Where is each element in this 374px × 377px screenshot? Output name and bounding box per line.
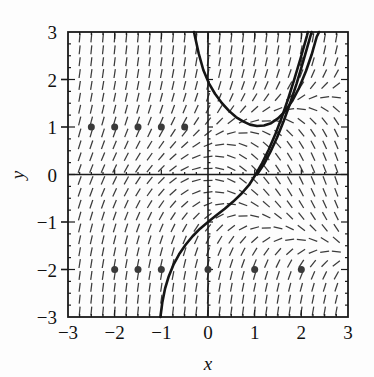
slope-field-dash [310,260,316,267]
slope-field-dash [333,83,340,89]
slope-field-dash [321,107,329,112]
slope-field-dash [91,295,92,304]
slope-field-dash [231,45,232,54]
slope-field-dash [184,57,185,66]
slope-field-dash [137,247,139,256]
slope-field-dash [147,153,152,160]
initial-condition-dot [111,266,118,273]
slope-field-dash [193,130,199,136]
slope-field-dash [102,105,104,114]
slope-field-dash [148,129,152,137]
slope-field-dash [137,283,138,292]
slope-field-dash [335,200,338,208]
slope-field-dash [286,119,294,123]
slope-field-dash [254,283,256,292]
slope-field-dash [172,283,173,292]
slope-field-dash [286,130,292,136]
slope-field-dash [90,235,92,244]
slope-field-dash [160,93,162,102]
slope-field-dash [265,259,269,267]
slope-field-dash [78,141,81,150]
slope-field-dash [79,57,80,66]
slope-field-dash [181,190,189,195]
y-tick-label: 1 [48,117,58,138]
slope-field-dash [90,164,93,172]
slope-field-dash [335,141,338,149]
slope-field-dash [193,213,199,219]
slope-field-dash [274,227,283,229]
slope-field-dash [219,69,221,78]
slope-field-dash [322,118,328,125]
slope-field-dash [101,176,105,184]
slope-field-dash [114,57,115,66]
slope-field-dash [136,165,141,173]
slope-field-dash [136,224,139,232]
slope-field-dash [333,261,340,267]
slope-field-dash [334,212,338,220]
slope-field-dash [126,45,127,54]
slope-field-dash [161,45,162,54]
slope-field-dash [102,81,104,90]
slope-field-dash [240,106,246,113]
slope-field-dash [311,212,316,220]
slope-field-dash [323,57,326,66]
slope-field-dash [172,295,173,304]
slope-field-dash [277,57,279,66]
slope-field-dash [78,164,81,172]
slope-field-dash [299,153,303,161]
slope-field-dash [171,117,175,125]
slope-field-dash [90,212,93,221]
slope-field-dash [101,141,104,149]
slope-field-dash [230,57,232,66]
slope-field-dash [333,237,340,243]
slope-field-dash [136,200,140,208]
slope-field-dash [195,271,197,280]
slope-field-dash [90,224,92,233]
slope-field-dash [265,57,267,66]
y-tick-label: −2 [37,260,57,281]
slope-field-dash [335,57,338,66]
x-tick-label: −2 [105,322,125,343]
slope-field-dash [227,178,235,182]
slope-field-dash [254,45,255,54]
slope-field-dash [287,188,292,196]
slope-field-dash [78,129,80,138]
slope-field-dash [228,225,235,231]
slope-field-dash [218,81,221,90]
slope-field-dash [242,271,244,280]
slope-field-dash [251,106,258,112]
slope-field-dash [103,45,104,54]
slope-field-dash [124,200,128,208]
slope-field-dash [297,109,306,110]
slope-field-dash [148,212,152,220]
slope-field-dash [274,213,281,218]
slope-field-dash [125,235,127,244]
slope-field-dash [137,93,139,102]
slope-field-dash [253,81,256,89]
slope-field-dash [195,69,197,78]
slope-field-dash [215,144,224,145]
slope-field-dash [251,237,258,243]
slope-field-dash [275,201,281,208]
slope-field-dash [183,93,186,102]
slope-field-dash [101,200,104,208]
slope-field-dash [113,176,117,184]
slope-field-dash [287,165,291,173]
slope-field-dash [137,105,140,114]
slope-field-dash [251,142,259,147]
slope-field-dash [170,189,177,195]
slope-field-dash [192,155,200,158]
slope-field-dash [125,129,128,137]
slope-field-dash [126,283,127,292]
slope-field-dash [159,201,164,208]
slope-field-dash [79,247,81,256]
slope-field-dash [335,176,338,184]
slope-field-dash [230,81,233,90]
slope-field-dash [320,97,329,98]
slope-field-dash [289,57,291,66]
slope-field-dash [137,81,139,90]
slope-field-dash [277,271,280,280]
slope-field-dash [172,57,173,66]
slope-field-dash [276,260,280,268]
initial-condition-dot [111,124,118,131]
